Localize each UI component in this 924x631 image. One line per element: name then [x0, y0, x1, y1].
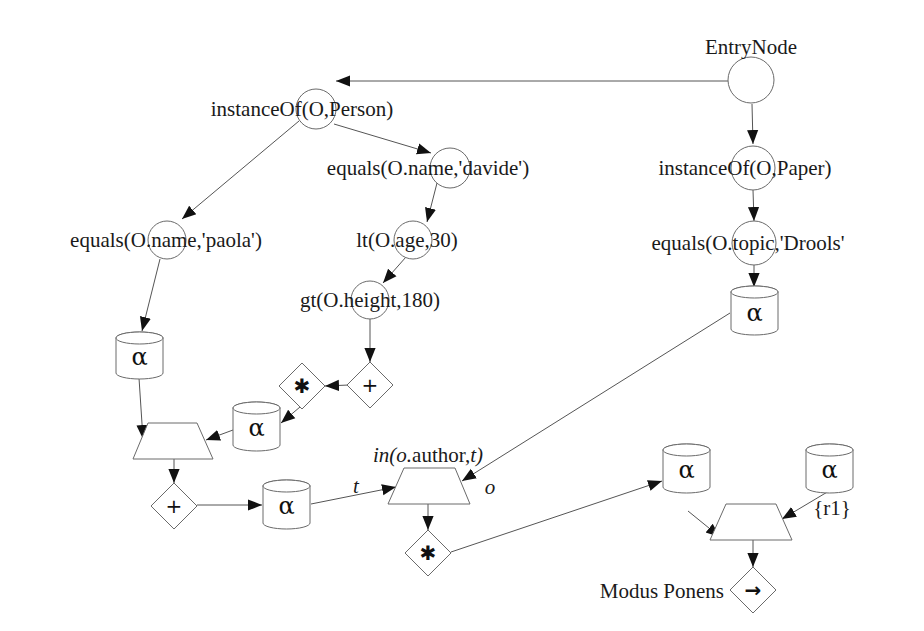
edge-plus-star — [325, 385, 349, 386]
alpha-memory-bottom[interactable]: α — [263, 480, 310, 529]
alpha-memory-r1[interactable]: α {r1} — [806, 444, 853, 520]
cylinder-top — [731, 286, 778, 298]
join-author-label: in(o.author,t) — [373, 443, 483, 467]
join-node-left[interactable] — [133, 423, 213, 459]
equals-drools-label: equals(O.topic,'Drools' — [651, 231, 844, 255]
gt-height-node[interactable]: gt(O.height,180) — [300, 281, 440, 319]
alpha-symbol: α — [678, 456, 694, 484]
alpha-symbol: α — [248, 414, 264, 442]
edge-paola-alpha — [142, 259, 160, 331]
asterisk-icon: ✱ — [420, 541, 437, 565]
lt-age-label: lt(O.age,30) — [356, 228, 457, 252]
cylinder-top — [663, 444, 710, 456]
entry-node[interactable]: EntryNode — [705, 35, 797, 103]
instanceof-paper-label: instanceOf(O,Paper) — [658, 156, 831, 180]
alpha-symbol: α — [746, 299, 762, 327]
edge-star-alpha-mid — [281, 407, 300, 423]
join-input-o-label: o — [485, 475, 496, 499]
edge-person-paola — [182, 121, 299, 219]
equals-paola-label: equals(O.name,'paola') — [70, 228, 262, 252]
trapezoid-icon — [710, 504, 792, 540]
lt-age-node[interactable]: lt(O.age,30) — [356, 221, 457, 259]
cylinder-top — [263, 480, 310, 492]
plus-icon: + — [362, 373, 379, 397]
instanceof-person-node[interactable]: instanceOf(O,Person) — [211, 89, 394, 129]
entry-node-label: EntryNode — [705, 35, 797, 59]
star-node-join[interactable]: ✱ — [405, 530, 451, 576]
alpha-symbol: α — [821, 456, 837, 484]
alpha-memory-right[interactable]: α — [663, 444, 710, 493]
edge-person-davide — [334, 124, 431, 153]
edge-alpha-paola-join — [139, 378, 143, 439]
trapezoid-icon — [133, 423, 213, 459]
edge-paper-drools — [753, 190, 754, 221]
edge-age-height — [383, 257, 406, 283]
asterisk-icon: ✱ — [294, 374, 311, 398]
trapezoid-icon — [388, 468, 470, 504]
entry-node-circle — [728, 57, 774, 103]
join-node-final[interactable] — [710, 504, 792, 540]
alpha-memory-drools[interactable]: α — [731, 286, 778, 335]
equals-paola-node[interactable]: equals(O.name,'paola') — [70, 221, 262, 259]
edge-entry-paper — [752, 104, 753, 144]
alpha-symbol: α — [278, 492, 294, 520]
instanceof-person-label: instanceOf(O,Person) — [211, 97, 394, 121]
equals-davide-label: equals(O.name,'davide') — [327, 156, 529, 180]
alpha-symbol: α — [131, 343, 147, 371]
equals-davide-node[interactable]: equals(O.name,'davide') — [327, 148, 529, 188]
edge-star-alpha-right — [451, 481, 662, 552]
r1-label: {r1} — [813, 496, 851, 520]
arrow-right-icon: → — [745, 578, 762, 602]
instanceof-paper-node[interactable]: instanceOf(O,Paper) — [658, 146, 831, 190]
equals-drools-node[interactable]: equals(O.topic,'Drools' — [651, 221, 844, 265]
cylinder-top — [806, 444, 853, 456]
plus-node-join[interactable]: + — [151, 483, 197, 529]
plus-icon: + — [166, 494, 183, 518]
modus-ponens-label: Modus Ponens — [600, 579, 724, 603]
alpha-memory-mid[interactable]: α — [233, 402, 280, 451]
rete-network-diagram: EntryNode instanceOf(O,Person) equals(O.… — [0, 0, 924, 631]
edge-alpha-mid-join — [206, 430, 233, 440]
star-node-height[interactable]: ✱ — [279, 363, 325, 409]
alpha-memory-paola[interactable]: α — [116, 332, 163, 379]
cylinder-top — [233, 402, 280, 414]
modus-ponens-node[interactable]: → Modus Ponens — [600, 567, 776, 613]
edge-davide-age — [427, 183, 437, 222]
gt-height-label: gt(O.height,180) — [300, 288, 440, 312]
plus-node-height[interactable]: + — [347, 362, 393, 408]
